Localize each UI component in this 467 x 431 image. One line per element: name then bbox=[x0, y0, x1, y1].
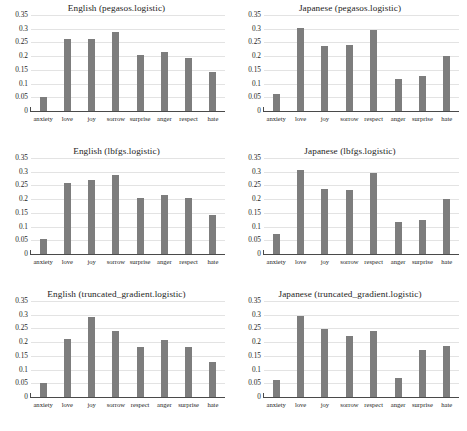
chart-title: English (lbfgs.logistic) bbox=[0, 143, 233, 157]
chart-title: Japanese (lbfgs.logistic) bbox=[233, 143, 467, 157]
bar-slot bbox=[55, 301, 79, 397]
x-axis-tick-label: respect bbox=[177, 114, 201, 123]
bar bbox=[419, 220, 426, 254]
chart-panel: Japanese (truncated_gradient.logistic)00… bbox=[233, 286, 467, 431]
x-axis-tick-label: respect bbox=[362, 257, 386, 266]
bar bbox=[443, 199, 450, 254]
bar bbox=[321, 329, 328, 397]
x-axis-tick-label: anger bbox=[152, 257, 176, 266]
y-axis-labels: 00.050.10.150.20.250.30.35 bbox=[0, 15, 30, 111]
y-axis-tick-label: 0 bbox=[257, 393, 261, 400]
bar-slot bbox=[177, 15, 201, 111]
y-axis-tick-label: 0.25 bbox=[248, 325, 261, 332]
bar bbox=[209, 72, 216, 111]
bar bbox=[395, 79, 402, 111]
bar-slot bbox=[362, 158, 386, 254]
bar bbox=[112, 32, 119, 111]
bar-series bbox=[264, 158, 459, 254]
x-axis-tick-label: respect bbox=[362, 400, 386, 409]
y-axis-tick-label: 0.3 bbox=[19, 311, 28, 318]
y-axis-tick-label: 0.1 bbox=[19, 223, 28, 230]
y-axis-tick-label: 0.25 bbox=[248, 182, 261, 189]
y-axis-tick-label: 0.3 bbox=[19, 168, 28, 175]
x-axis-tick-label: love bbox=[55, 114, 79, 123]
x-axis-tick-label: anxiety bbox=[31, 257, 55, 266]
bar-slot bbox=[104, 158, 128, 254]
bar bbox=[88, 39, 95, 111]
bar-slot bbox=[410, 15, 434, 111]
y-axis-tick-label: 0 bbox=[24, 107, 28, 114]
bar bbox=[161, 340, 168, 397]
bar bbox=[346, 45, 353, 111]
bar-slot bbox=[201, 301, 225, 397]
x-axis-tick-label: sorrow bbox=[337, 114, 361, 123]
bar bbox=[137, 347, 144, 397]
x-axis-tick-label: sorrow bbox=[337, 257, 361, 266]
x-axis-tick-label: sorrow bbox=[337, 400, 361, 409]
bar bbox=[297, 170, 304, 254]
bar bbox=[64, 183, 71, 254]
y-axis-tick-label: 0.2 bbox=[19, 195, 28, 202]
bar-slot bbox=[80, 301, 104, 397]
bar bbox=[137, 198, 144, 254]
bar-slot bbox=[288, 158, 312, 254]
bar bbox=[321, 189, 328, 254]
y-axis-tick-label: 0.3 bbox=[252, 25, 261, 32]
bar-slot bbox=[80, 15, 104, 111]
x-axis-labels: anxietylovejoysorrowrespectangersurprise… bbox=[31, 400, 225, 409]
x-axis-tick-label: anxiety bbox=[264, 114, 288, 123]
x-axis-tick-label: surprise bbox=[410, 400, 434, 409]
bar bbox=[64, 339, 71, 397]
bar-slot bbox=[386, 301, 410, 397]
x-axis-tick-label: sorrow bbox=[104, 400, 128, 409]
bar bbox=[273, 234, 280, 254]
bar bbox=[321, 46, 328, 111]
bar-slot bbox=[128, 301, 152, 397]
x-axis-tick-label: anxiety bbox=[31, 114, 55, 123]
x-axis-tick-label: respect bbox=[128, 400, 152, 409]
x-axis-tick-label: hate bbox=[201, 257, 225, 266]
bar-slot bbox=[435, 158, 459, 254]
bar bbox=[273, 94, 280, 111]
x-axis-tick-label: surprise bbox=[410, 114, 434, 123]
bar-slot bbox=[80, 158, 104, 254]
y-axis-labels: 00.050.10.150.20.250.30.35 bbox=[0, 158, 30, 254]
y-axis-tick-label: 0.05 bbox=[248, 94, 261, 101]
x-axis-tick-label: hate bbox=[435, 114, 459, 123]
bar-slot bbox=[128, 15, 152, 111]
bar bbox=[88, 180, 95, 254]
bar-slot bbox=[104, 301, 128, 397]
bar-slot bbox=[264, 15, 288, 111]
y-axis-tick-label: 0.15 bbox=[248, 209, 261, 216]
bar-slot bbox=[288, 15, 312, 111]
y-axis-tick-label: 0.25 bbox=[248, 39, 261, 46]
bar-series bbox=[264, 301, 459, 397]
bar-slot bbox=[313, 301, 337, 397]
x-axis-tick-label: love bbox=[55, 400, 79, 409]
chart-panel: Japanese (pegasos.logistic)00.050.10.150… bbox=[233, 0, 467, 143]
y-axis-tick-label: 0.25 bbox=[15, 39, 28, 46]
plot-wrapper: 00.050.10.150.20.250.30.35anxietylovejoy… bbox=[233, 15, 467, 143]
bar bbox=[161, 195, 168, 254]
bar-slot bbox=[104, 15, 128, 111]
y-axis-tick-label: 0.05 bbox=[15, 380, 28, 387]
x-axis-labels: anxietylovejoysorrowsurpriseangerrespect… bbox=[31, 114, 225, 123]
bar bbox=[209, 215, 216, 254]
x-axis-tick-label: love bbox=[288, 400, 312, 409]
bar bbox=[370, 173, 377, 254]
plot-area bbox=[31, 301, 225, 398]
y-axis-tick-label: 0.1 bbox=[19, 366, 28, 373]
y-axis-tick-label: 0.15 bbox=[15, 209, 28, 216]
bar-slot bbox=[55, 158, 79, 254]
y-axis-tick-label: 0.2 bbox=[19, 338, 28, 345]
y-axis-tick-label: 0.1 bbox=[252, 366, 261, 373]
y-axis-tick-label: 0.25 bbox=[15, 182, 28, 189]
y-axis-tick-label: 0.2 bbox=[252, 195, 261, 202]
x-axis-tick-label: hate bbox=[201, 400, 225, 409]
y-axis-tick-label: 0 bbox=[257, 250, 261, 257]
chart-title: English (pegasos.logistic) bbox=[0, 0, 233, 14]
x-axis-tick-label: hate bbox=[435, 400, 459, 409]
bar bbox=[40, 383, 47, 397]
x-axis-tick-label: joy bbox=[80, 400, 104, 409]
bar bbox=[346, 336, 353, 397]
